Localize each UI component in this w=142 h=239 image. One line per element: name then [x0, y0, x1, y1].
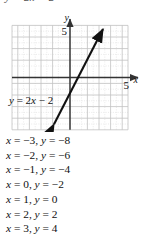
x-value: = 0, — [11, 178, 35, 190]
x-value: = 1, — [11, 193, 35, 205]
x-value: = −2, — [11, 149, 41, 161]
equation-annotation: y = 2x − 2 — [8, 94, 53, 106]
x-value: = 3, — [11, 222, 35, 234]
x-value: = −3, — [11, 134, 41, 146]
y-value: = −4 — [46, 163, 70, 175]
x-axis-label: x — [133, 74, 139, 85]
y-value: = −6 — [46, 149, 70, 161]
x-value: = 2, — [11, 208, 35, 220]
coordinate-graph: y x 5 5 y = 2x − 2 — [0, 8, 142, 132]
graph-svg: y x 5 5 y = 2x − 2 — [0, 8, 142, 132]
y-axis-label: y — [64, 12, 70, 23]
y-value: = 2 — [40, 208, 58, 220]
list-item: x = 1, y = 0 — [6, 192, 136, 207]
y-value: = 0 — [40, 193, 58, 205]
list-item: x = −2, y = −6 — [6, 148, 136, 163]
y-value: = −8 — [46, 134, 70, 146]
plotted-line — [54, 29, 103, 124]
equation-rest: − 2 — [36, 94, 53, 106]
y-value: = 4 — [40, 222, 58, 234]
list-item: x = 3, y = 4 — [6, 221, 136, 236]
list-item: x = 2, y = 2 — [6, 207, 136, 222]
list-item: x = −3, y = −8 — [6, 133, 136, 148]
list-item: x = −1, y = −4 — [6, 162, 136, 177]
equation-eq: = 2 — [14, 94, 31, 106]
y-tick-5: 5 — [62, 25, 68, 37]
solution-list: x = −3, y = −8 x = −2, y = −6 x = −1, y … — [6, 133, 136, 236]
y-value: = −2 — [40, 178, 64, 190]
clipped-header-text: y = 2x − 2 — [5, 0, 55, 3]
list-item: x = 0, y = −2 — [6, 177, 136, 192]
x-value: = −1, — [11, 163, 41, 175]
x-tick-5: 5 — [124, 79, 130, 91]
